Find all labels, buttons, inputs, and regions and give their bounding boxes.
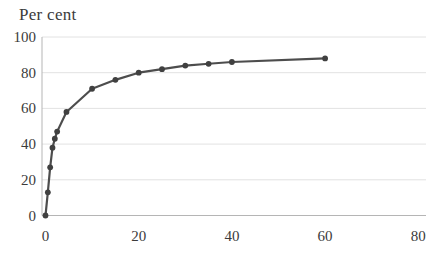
x-tick-label-20: 20 (131, 228, 146, 244)
data-point-x30 (182, 63, 188, 69)
data-series-line (46, 58, 326, 215)
y-tick-label-40: 40 (21, 136, 36, 152)
x-tick-label-80: 80 (411, 228, 426, 244)
data-point-x1 (47, 164, 53, 170)
data-point-x1.5 (50, 145, 56, 151)
data-point-x40 (229, 59, 235, 65)
data-point-x0.5 (45, 189, 51, 195)
data-point-x10 (89, 86, 95, 92)
data-point-x0 (43, 213, 49, 219)
data-point-x4.5 (64, 109, 70, 115)
chart-canvas: 020406080100020406080 (0, 0, 434, 256)
y-tick-label-60: 60 (21, 100, 36, 116)
y-tick-label-100: 100 (14, 29, 37, 45)
data-point-x2.5 (54, 129, 60, 135)
data-point-x60 (322, 56, 328, 62)
data-point-x35 (206, 61, 212, 67)
percent-line-chart-figure: Per cent 020406080100020406080 (0, 0, 434, 256)
x-tick-label-60: 60 (318, 228, 333, 244)
data-point-x2 (52, 136, 58, 142)
y-tick-label-0: 0 (29, 208, 37, 224)
x-tick-label-0: 0 (42, 228, 50, 244)
y-tick-label-20: 20 (21, 172, 36, 188)
data-point-x25 (159, 66, 165, 72)
data-point-x20 (136, 70, 142, 76)
x-tick-label-40: 40 (224, 228, 239, 244)
y-tick-label-80: 80 (21, 65, 36, 81)
chart-title: Per cent (19, 5, 77, 25)
data-point-x15 (113, 77, 119, 83)
